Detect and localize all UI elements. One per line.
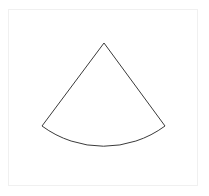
sector-shape-svg bbox=[0, 0, 209, 196]
image-canvas bbox=[0, 0, 209, 196]
circular-sector-outline bbox=[42, 43, 165, 146]
